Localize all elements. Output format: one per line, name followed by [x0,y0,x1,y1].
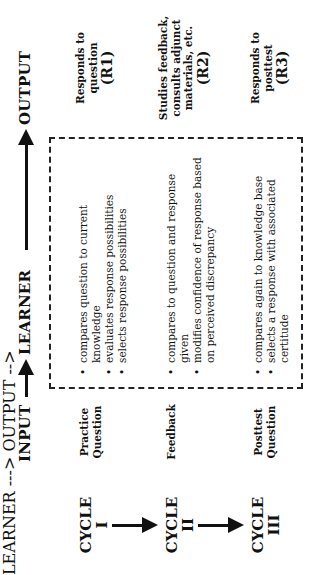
header-output: OUTPUT [16,51,34,125]
cycle-3-learner-steps: compares again to knowledge base selects… [252,155,291,375]
cycle-3-output: Responds to posttest (R3) [249,13,290,123]
output-line: question [87,13,100,123]
response-code: (R3) [274,13,290,123]
arrow-right-icon [18,359,34,375]
learner-step: selects response possibilities [116,145,129,375]
output-line: materials, etc. [182,13,195,123]
cycle-numeral: II [180,495,196,555]
output-line: Responds to [74,13,87,123]
header-input: INPUT [16,405,34,462]
cycle-numeral: I [94,495,110,555]
output-line: posttest [262,13,275,123]
learner-step: evaluates response possibilities [103,145,116,375]
input-line: Question [265,397,278,467]
learner-step: compares again to knowledge base [252,155,265,375]
cycle-1-output: Responds to question (R1) [74,13,115,123]
input-line: Posttest [252,397,265,467]
learner-step: compares question to current knowledge [77,145,103,375]
arrow-learner-output-line [25,140,28,250]
cycle-1-learner-steps: compares question to current knowledge e… [77,145,129,375]
arrow-down-icon [228,517,244,533]
cycle-1-label: CYCLE I [78,495,110,555]
cycle-numeral: III [266,495,282,555]
learner-step: compares to question and response given [165,143,191,375]
cycle-1-input: Practice Question [78,397,104,467]
cycle-2-input: Feedback [165,397,178,467]
cycle-label-text: CYCLE [78,495,94,555]
learner-step: selects a response with associated certi… [265,155,291,375]
cycle-3-label: CYCLE III [250,495,282,555]
header-learner: LEARNER [16,270,34,355]
learning-cycle-diagram: LEARNER ---> OUTPUT --> INPUT LEARNER OU… [0,0,317,575]
cycle-2-learner-steps: compares to question and response given … [165,143,217,375]
input-line: Feedback [165,397,178,467]
cycle-3-input: Posttest Question [252,397,278,467]
cycle-label-text: CYCLE [250,495,266,555]
response-code: (R2) [195,13,211,123]
output-line: Studies feedback, [157,13,170,123]
output-line: Responds to [249,13,262,123]
input-line: Practice [78,397,91,467]
learner-step: modifies confidence of response based on… [191,143,217,375]
arrow-down-icon [142,517,158,533]
output-line: consults adjunct [170,13,183,123]
arrow-right-icon [18,129,34,145]
response-code: (R1) [99,13,115,123]
cycle-2-output: Studies feedback, consults adjunct mater… [157,13,211,123]
cycle-2-label: CYCLE II [164,495,196,555]
input-line: Question [91,397,104,467]
cycle-label-text: CYCLE [164,495,180,555]
